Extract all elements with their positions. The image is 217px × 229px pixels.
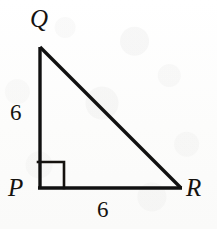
- side-length-label-vertical: 6: [10, 101, 22, 124]
- vertex-label-p: P: [8, 175, 23, 200]
- vertex-label-r: R: [186, 175, 201, 200]
- side-length-label-horizontal: 6: [97, 198, 109, 221]
- segment-QR: [40, 47, 181, 188]
- triangle-drawing: [0, 0, 217, 229]
- geometry-figure: Q P R 6 6: [0, 0, 217, 229]
- vertex-label-q: Q: [30, 6, 48, 31]
- right-angle-marker: [38, 162, 64, 188]
